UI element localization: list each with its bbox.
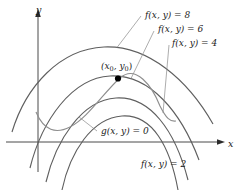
point-label-close: ) <box>129 61 133 71</box>
axis-label-x: x <box>228 138 233 149</box>
tangency-point-marker <box>115 75 121 81</box>
point-label-sub-y: 0 <box>125 65 129 73</box>
label-f-level-4: f(x, y) = 4 <box>172 39 217 48</box>
axis-label-y: y <box>36 4 41 15</box>
label-g-constraint: g(x, y) = 0 <box>101 127 149 136</box>
leader-line-g <box>79 117 97 131</box>
figure-container: y x f(x, y) = 8 f(x, y) = 6 f(x, y) = 4 … <box>0 0 240 192</box>
label-f-level-2: f(x, y) = 2 <box>141 160 186 169</box>
figure-canvas <box>0 0 240 192</box>
label-f-level-6: f(x, y) = 6 <box>158 25 203 34</box>
label-tangency-point: (x0, y0) <box>101 62 132 71</box>
level-curve-f8 <box>12 47 213 132</box>
point-label-mid: , y <box>114 61 125 71</box>
point-label-sub-x: 0 <box>110 65 114 73</box>
leader-line-f8 <box>117 16 141 48</box>
point-label-open: (x <box>101 61 110 71</box>
constraint-curve-g <box>36 74 176 131</box>
leader-line-f6 <box>131 31 154 79</box>
label-f-level-8: f(x, y) = 8 <box>145 11 190 20</box>
